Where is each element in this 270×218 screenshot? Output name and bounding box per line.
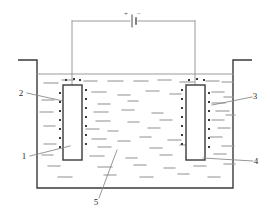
charge-dot [181,134,183,136]
charge-dot [59,146,61,148]
charge-dot [181,89,183,91]
charge-dot [85,98,87,100]
charge-dot [181,98,183,100]
charge-dot [208,101,210,103]
charge-dot [208,137,210,139]
label-3-leader [212,97,252,105]
charge-dot [85,116,87,118]
charge-dot [188,79,190,81]
charge-dot [85,107,87,109]
charge-dot [85,143,87,145]
charge-dot [208,119,210,121]
label-5: 5 [94,197,99,207]
charge-dot [85,125,87,127]
charge-dot [59,92,61,94]
electrolysis-diagram: +−12345 [0,0,270,218]
electrode-right [186,85,205,160]
label-3: 3 [253,91,258,101]
label-4-leader [203,158,253,161]
label-4: 4 [254,156,259,166]
charge-dot [181,143,183,145]
charge-dot [181,107,183,109]
tank-outline [18,60,252,188]
charge-dot [196,78,198,80]
electrode-left [63,85,82,160]
charge-dot [208,128,210,130]
charge-dot [73,78,75,80]
label-5-leader [99,150,117,198]
charge-dot [59,110,61,112]
label-2: 2 [19,88,24,98]
label-1: 1 [22,151,27,161]
charge-dot [59,101,61,103]
charge-dot [85,89,87,91]
charge-dot [208,110,210,112]
charge-dot [59,119,61,121]
charge-dot [208,146,210,148]
charge-dot [65,79,67,81]
charge-dot [203,79,205,81]
charge-dot [79,79,81,81]
battery-plus-sign: + [124,10,128,18]
charge-dot [85,134,87,136]
charge-dot [208,92,210,94]
charge-dot [181,125,183,127]
battery-minus-sign: − [137,10,141,18]
charge-dot [59,137,61,139]
charge-dot [59,128,61,130]
charge-dot [181,116,183,118]
diagram-canvas: +−12345 [0,0,270,218]
